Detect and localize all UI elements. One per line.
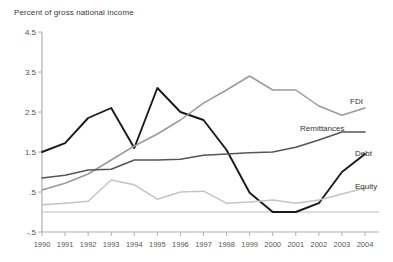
x-tick-label: 2003 [334, 240, 351, 249]
y-tick-label: 2.5 [25, 108, 37, 117]
x-tick-label: 1992 [80, 240, 97, 249]
y-tick-label: 1.5 [25, 148, 37, 157]
x-tick-label: 2004 [357, 240, 374, 249]
x-tick-label: 1991 [57, 240, 74, 249]
line-chart-plot: -.5.51.52.53.54.5 1990199119921993199419… [0, 0, 393, 262]
x-tick-label: 1990 [34, 240, 51, 249]
x-tick-label: 2000 [264, 240, 281, 249]
x-tick-label: 1997 [195, 240, 212, 249]
x-tick-label: 1994 [126, 240, 143, 249]
series-line-debt [42, 88, 365, 212]
x-tick-label: 2001 [287, 240, 304, 249]
chart-container: Percent of gross national income -.5.51.… [0, 0, 393, 262]
series-line-equity [42, 180, 365, 205]
x-axis: 1990199119921993199419951996199719981999… [34, 232, 379, 249]
y-tick-label: 4.5 [25, 28, 37, 37]
series-line-remittances [42, 132, 365, 178]
y-tick-label: -.5 [27, 228, 37, 237]
series-label-fdi: FDI [350, 97, 363, 106]
y-axis: -.5.51.52.53.54.5 [25, 28, 42, 237]
series-label-remittances: Remittances [300, 124, 344, 133]
x-tick-label: 1999 [241, 240, 258, 249]
series-line-fdi [42, 76, 365, 190]
series-label-equity: Equity [355, 182, 377, 191]
y-tick-label: .5 [29, 188, 36, 197]
x-tick-label: 1993 [103, 240, 120, 249]
series-label-debt: Debt [355, 149, 373, 158]
series-lines [42, 76, 365, 212]
y-tick-label: 3.5 [25, 68, 37, 77]
x-tick-label: 1998 [218, 240, 235, 249]
x-tick-label: 2002 [311, 240, 328, 249]
x-tick-label: 1996 [172, 240, 189, 249]
x-tick-label: 1995 [149, 240, 166, 249]
